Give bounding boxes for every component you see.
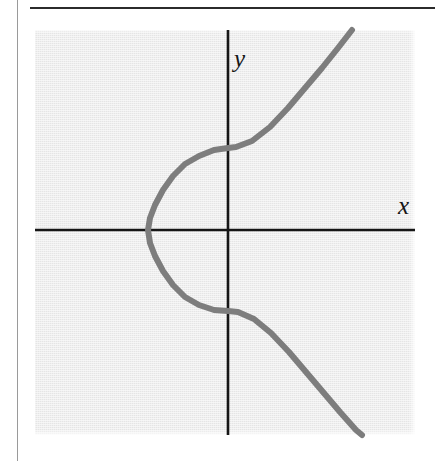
x-axis-label: x bbox=[398, 193, 409, 218]
cubic-curve-path bbox=[148, 30, 362, 435]
y-axis-label: y bbox=[234, 46, 245, 71]
scanned-page: y x bbox=[0, 0, 441, 461]
curve-group bbox=[148, 30, 362, 435]
coordinate-plot bbox=[0, 0, 441, 461]
axes-group bbox=[35, 30, 415, 435]
